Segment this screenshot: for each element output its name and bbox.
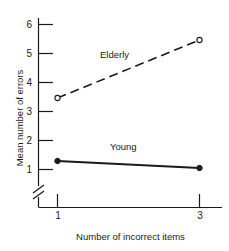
x-axis-label: Number of incorrect items bbox=[38, 231, 223, 242]
y-axis-ticks bbox=[39, 25, 54, 170]
x-tick-label-3: 3 bbox=[193, 211, 207, 221]
x-axis-ticks bbox=[58, 194, 200, 208]
series-label-elderly: Elderly bbox=[100, 50, 129, 60]
data-point-young-1 bbox=[55, 158, 60, 163]
chart-figure: 6 5 4 3 2 1 1 3 Mean number of errors Nu… bbox=[0, 0, 229, 251]
y-tick-label-6: 6 bbox=[18, 20, 32, 30]
data-point-young-3 bbox=[197, 165, 202, 170]
x-tick-label-1: 1 bbox=[51, 211, 65, 221]
series-line-young bbox=[58, 161, 200, 168]
data-point-elderly-3 bbox=[197, 37, 202, 42]
y-axis-label: Mean number of errors bbox=[15, 58, 25, 178]
data-point-elderly-1 bbox=[55, 95, 60, 100]
y-axis-break-icon bbox=[33, 185, 44, 199]
series-label-young: Young bbox=[110, 142, 137, 152]
